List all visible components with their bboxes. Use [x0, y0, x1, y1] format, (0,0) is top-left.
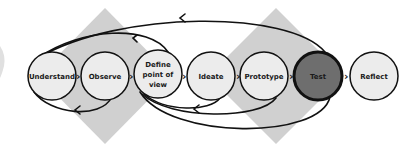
- stage-label-line: Define: [145, 61, 171, 69]
- stage-label: Ideate: [198, 73, 223, 81]
- chevron-right-icon: ›: [182, 70, 187, 83]
- stage-label: Prototype: [244, 73, 283, 81]
- stage-label: Understand: [29, 73, 75, 81]
- stage-prototype[interactable]: Prototype: [240, 52, 288, 100]
- loop-test-to-understand-arrow-icon: [180, 14, 185, 22]
- design-thinking-diagram: Understand › Observe › Define point of v…: [0, 0, 418, 146]
- stage-label: Test: [310, 73, 327, 81]
- stage-label: Observe: [89, 73, 122, 81]
- stage-reflect[interactable]: Reflect: [350, 52, 398, 100]
- stage-define-point-of-view[interactable]: Define point of view: [134, 50, 182, 98]
- stage-label-line: point of: [143, 71, 175, 79]
- stage-understand[interactable]: Understand: [28, 52, 76, 100]
- stage-ideate[interactable]: Ideate: [187, 52, 235, 100]
- stage-test[interactable]: Test: [294, 52, 342, 100]
- chevron-right-icon: ›: [129, 70, 134, 83]
- loop-ideate-to-define-arrow-icon: [194, 105, 199, 113]
- stage-label: Reflect: [360, 73, 388, 81]
- stage-label-line: view: [149, 81, 168, 89]
- stage-observe[interactable]: Observe: [81, 52, 129, 100]
- chevron-right-icon: ›: [76, 70, 81, 83]
- edge-fragment: [0, 46, 5, 78]
- chevron-right-icon: ›: [344, 70, 349, 83]
